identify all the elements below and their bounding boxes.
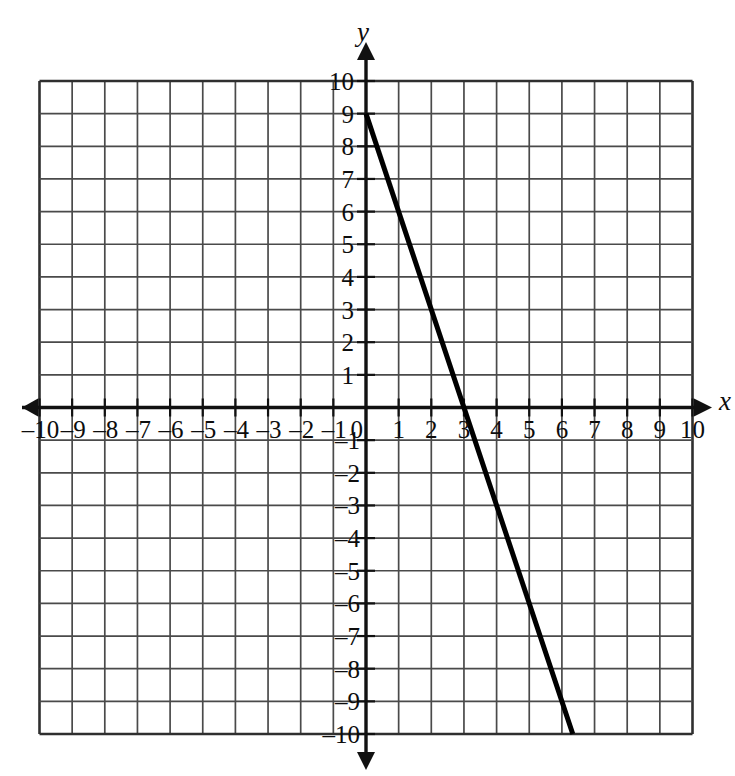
y-tick-label: 7 [342,166,355,191]
x-tick-label: 10 [680,417,705,442]
graph-canvas [0,0,735,776]
y-tick-label: 10 [329,69,354,94]
x-tick-label: –2 [289,417,314,442]
y-tick-label: 4 [342,264,355,289]
y-tick-label: –2 [335,460,360,485]
x-tick-label: 5 [523,417,536,442]
x-tick-label: –9 [61,417,86,442]
y-tick-label: 5 [342,232,355,257]
y-tick-label: –10 [323,722,361,747]
x-tick-label: –7 [126,417,151,442]
y-tick-label: –9 [335,689,360,714]
x-tick-label: 9 [654,417,667,442]
x-tick-label: 8 [621,417,634,442]
x-tick-label: 2 [425,417,438,442]
y-tick-label: 9 [342,101,355,126]
x-tick-label: 7 [588,417,601,442]
y-tick-label: –3 [335,493,360,518]
y-tick-label: 1 [342,362,355,387]
x-tick-label: 4 [490,417,503,442]
coordinate-plane-figure: –10–9–8–7–6–5–4–3–2–11234567891001234567… [0,0,735,776]
y-tick-label: –6 [335,591,360,616]
x-tick-label: –4 [224,417,249,442]
x-tick-label: 6 [556,417,569,442]
y-tick-label: –5 [335,558,360,583]
x-tick-label: –8 [93,417,118,442]
x-tick-label: –10 [22,417,60,442]
y-tick-label: –7 [335,624,360,649]
y-tick-label: 3 [342,297,355,322]
y-tick-label: 8 [342,134,355,159]
y-tick-label: 2 [342,330,355,355]
y-tick-label: 6 [342,199,355,224]
y-tick-label: –1 [335,428,360,453]
x-axis-left-arrowhead [22,399,38,417]
x-axis-label: x [719,388,731,415]
x-tick-label: 1 [392,417,405,442]
x-tick-label: 3 [458,417,471,442]
y-axis-bottom-arrowhead [357,752,375,770]
y-tick-label: –8 [335,656,360,681]
x-tick-label: –5 [191,417,216,442]
x-tick-label: –3 [257,417,282,442]
x-tick-label: –6 [159,417,184,442]
y-tick-label: –4 [335,526,360,551]
y-axis-label: y [357,19,369,46]
